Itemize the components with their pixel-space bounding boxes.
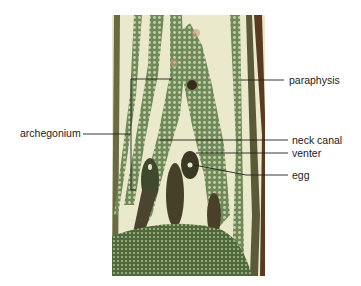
label-paraphysis: paraphysis [289,75,340,86]
label-venter: venter [292,148,321,159]
label-egg: egg [292,170,310,181]
label-neck-canal: neck canal [292,135,342,146]
egg-leader-line [194,165,288,175]
label-archegonium: archegonium [20,128,81,139]
